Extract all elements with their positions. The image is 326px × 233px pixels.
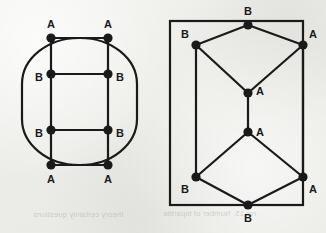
graph-node-label: A — [309, 28, 317, 40]
graph-node-b — [191, 172, 200, 181]
graph-node-b — [46, 69, 55, 78]
right-graph: BBAAABAB — [170, 5, 317, 224]
graph-node-label: A — [104, 18, 112, 30]
graph-node-label: A — [309, 183, 317, 195]
graph-node-a — [298, 40, 307, 49]
graph-node-a — [103, 160, 112, 169]
graph-node-label: B — [35, 71, 43, 83]
graph-node-a — [46, 160, 55, 169]
graph-node-label: B — [35, 127, 43, 139]
graph-outline-rectangle — [170, 21, 303, 205]
graph-node-a — [243, 127, 252, 136]
graph-edge — [248, 177, 303, 205]
graph-node-a — [243, 88, 252, 97]
graph-outline-stadium — [22, 38, 137, 165]
figure-page: AABBBBAA BBAAABAB theory certainly quest… — [0, 0, 326, 233]
graph-node-a — [46, 33, 55, 42]
graph-node-label: B — [116, 71, 124, 83]
graph-node-label: B — [181, 183, 189, 195]
graph-node-label: A — [256, 85, 264, 97]
graph-node-label: A — [47, 173, 55, 185]
graph-node-label: A — [104, 173, 112, 185]
graph-edge — [248, 25, 303, 45]
graph-node-label: B — [244, 212, 252, 224]
graph-node-b — [243, 200, 252, 209]
graph-node-a — [103, 33, 112, 42]
graph-node-label: B — [181, 28, 189, 40]
graph-edge — [196, 177, 248, 205]
graph-node-b — [243, 20, 252, 29]
graph-node-label: B — [244, 5, 252, 17]
graph-node-label: B — [116, 127, 124, 139]
graph-node-label: A — [47, 18, 55, 30]
graph-node-b — [103, 69, 112, 78]
left-graph: AABBBBAA — [22, 18, 137, 185]
graph-figure-canvas: AABBBBAA BBAAABAB — [0, 0, 326, 233]
graph-node-label: A — [256, 126, 264, 138]
graph-node-a — [298, 172, 307, 181]
graph-node-b — [191, 40, 200, 49]
graph-edge — [196, 45, 248, 93]
graph-edge — [196, 132, 248, 177]
graph-node-b — [46, 125, 55, 134]
graph-edge — [196, 25, 248, 45]
graph-node-b — [103, 125, 112, 134]
graph-edge — [248, 132, 303, 177]
